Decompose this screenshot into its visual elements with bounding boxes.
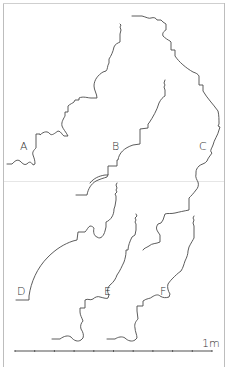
profile-label-c: C (199, 141, 207, 152)
profile-label-e: E (104, 286, 111, 297)
profiles-drawing (0, 0, 228, 367)
profile-c (132, 16, 220, 250)
profile-b (90, 80, 165, 183)
profile-label-a: A (20, 141, 28, 152)
scale-bar (15, 350, 212, 352)
figure-canvas: A B C D E F 1m (0, 0, 228, 367)
profile-label-d: D (17, 286, 25, 297)
profile-label-f: F (160, 286, 166, 297)
profile-e (52, 214, 137, 341)
profile-d-cap (76, 175, 108, 195)
profile-label-b: B (112, 141, 119, 152)
profile-f (107, 216, 194, 341)
profile-d (16, 183, 117, 300)
scale-label: 1m (202, 338, 220, 349)
